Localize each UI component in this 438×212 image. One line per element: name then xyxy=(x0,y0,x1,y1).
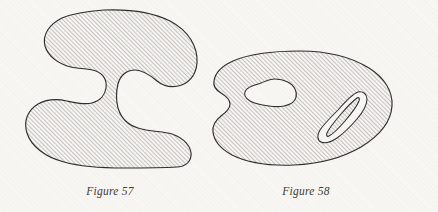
figure-57-hatch-fill xyxy=(26,10,197,168)
figure-58-hatch-fill xyxy=(200,40,410,180)
figures-illustration xyxy=(0,0,438,212)
figure-57-caption: Figure 57 xyxy=(44,185,176,197)
figure-58-shape xyxy=(200,40,410,180)
figure-58-caption: Figure 58 xyxy=(240,185,372,197)
figure-57-shape xyxy=(26,10,197,168)
figure-page: Figure 57 Figure 58 xyxy=(0,0,438,212)
